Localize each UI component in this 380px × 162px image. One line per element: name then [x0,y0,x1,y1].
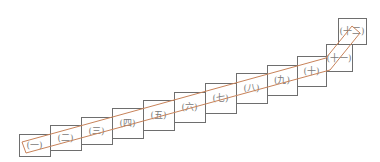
step-box: (七) [206,84,237,114]
step-box: (十二) [339,19,367,45]
band-end-cap [22,142,26,153]
band-upper-line [22,26,352,142]
step-box: (十) [298,57,327,87]
step-box: (六) [175,93,206,123]
staircase-diagram: (一)(二)(三)(四)(五)(六)(七)(八)(九)(十)(十一)(十二) [0,0,380,162]
step-box: (五) [144,101,175,131]
step-box: (一) [20,135,51,157]
box-group: (一)(二)(三)(四)(五)(六)(七)(八)(九)(十)(十一)(十二) [20,19,367,157]
step-box-label: (一) [26,140,42,150]
step-box-label: (十) [303,65,319,76]
step-box: (二) [51,126,82,151]
